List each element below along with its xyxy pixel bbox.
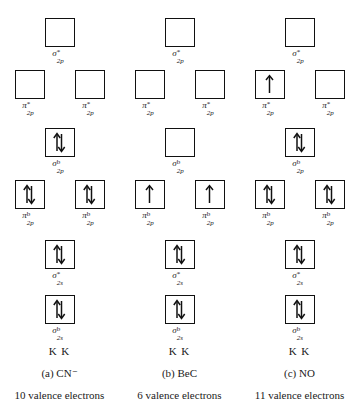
energy-level-sigma-star-2p: σ*2p	[240, 18, 359, 58]
orbital-pi-star-2p-2: π*2p	[190, 70, 230, 110]
orbital-pi-star-2p-1: π*2p	[10, 70, 50, 110]
orbital-sigma-b-2s: σb2s	[280, 295, 320, 335]
orbital-label-sigma-b-2p: σb2p	[52, 159, 66, 168]
orbital-label-pi-star-2p: π*2p	[322, 101, 337, 110]
orbital-pi-b-2p-1: πb2p	[10, 180, 50, 220]
orbital-label-sigma-b-2p: σb2p	[172, 159, 186, 168]
orbital-box-empty	[165, 18, 195, 47]
mo-column-no: σ*2pπ*2pπ*2pσb2pπb2pπb2pσ*2sσb2sK K(c) N…	[240, 0, 359, 409]
orbital-label-sigma-b-2p: σb2p	[292, 159, 306, 168]
orbital-label-pi-star-2p: π*2p	[202, 101, 217, 110]
orbital-pi-b-2p-1: πb2p	[130, 180, 170, 220]
orbital-pi-star-2p-2: π*2p	[310, 70, 350, 110]
orbital-box-paired-electrons	[315, 180, 345, 209]
energy-level-sigma-b-2p: σb2p	[240, 128, 359, 168]
orbital-sigma-star-2s: σ*2s	[40, 240, 80, 280]
orbital-label-pi-b-2p: πb2p	[262, 211, 277, 220]
core-shell-label: K K	[0, 345, 119, 357]
orbital-label-sigma-star-2p: σ*2p	[292, 49, 306, 58]
orbital-box-empty	[315, 70, 345, 99]
orbital-label-sigma-star-2s: σ*2s	[52, 271, 66, 280]
orbital-label-pi-b-2p: πb2p	[142, 211, 157, 220]
orbital-box-empty	[165, 128, 195, 157]
orbital-label-sigma-star-2p: σ*2p	[172, 49, 186, 58]
orbital-sigma-star-2p: σ*2p	[160, 18, 200, 58]
energy-level-sigma-b-2s: σb2s	[120, 295, 239, 335]
orbital-pi-b-2p-2: πb2p	[310, 180, 350, 220]
orbital-pi-b-2p-2: πb2p	[70, 180, 110, 220]
orbital-box-single-electron	[255, 70, 285, 99]
orbital-label-pi-star-2p: π*2p	[22, 101, 37, 110]
orbital-sigma-star-2p: σ*2p	[40, 18, 80, 58]
orbital-box-paired-electrons	[45, 128, 75, 157]
energy-level-sigma-star-2s: σ*2s	[240, 240, 359, 280]
energy-level-sigma-star-2s: σ*2s	[0, 240, 119, 280]
orbital-pi-star-2p-1: π*2p	[250, 70, 290, 110]
orbital-pi-star-2p-2: π*2p	[70, 70, 110, 110]
orbital-box-empty	[135, 70, 165, 99]
core-shell-label: K K	[240, 345, 359, 357]
orbital-label-sigma-b-2s: σb2s	[52, 326, 66, 335]
column-caption: (c) NO	[240, 367, 359, 379]
orbital-box-paired-electrons	[15, 180, 45, 209]
orbital-sigma-star-2p: σ*2p	[280, 18, 320, 58]
energy-level-pi-b-2p: πb2pπb2p	[120, 180, 239, 220]
energy-level-sigma-b-2s: σb2s	[0, 295, 119, 335]
orbital-sigma-b-2p: σb2p	[40, 128, 80, 168]
energy-level-sigma-star-2s: σ*2s	[120, 240, 239, 280]
column-caption: (a) CN⁻	[0, 367, 119, 380]
mo-column-cn: σ*2pπ*2pπ*2pσb2pπb2pπb2pσ*2sσb2sK K(a) C…	[0, 0, 119, 409]
orbital-box-empty	[285, 18, 315, 47]
orbital-sigma-b-2s: σb2s	[40, 295, 80, 335]
orbital-box-paired-electrons	[165, 295, 195, 324]
energy-level-sigma-star-2p: σ*2p	[120, 18, 239, 58]
orbital-box-empty	[15, 70, 45, 99]
core-shell-label: K K	[120, 345, 239, 357]
energy-level-sigma-b-2p: σb2p	[120, 128, 239, 168]
energy-level-sigma-b-2s: σb2s	[240, 295, 359, 335]
orbital-label-sigma-b-2s: σb2s	[172, 326, 186, 335]
valence-electron-count: 11 valence electrons	[240, 389, 359, 401]
orbital-label-sigma-star-2s: σ*2s	[292, 271, 306, 280]
orbital-label-pi-star-2p: π*2p	[142, 101, 157, 110]
energy-level-pi-b-2p: πb2pπb2p	[0, 180, 119, 220]
orbital-sigma-b-2p: σb2p	[280, 128, 320, 168]
column-caption: (b) BeC	[120, 367, 239, 379]
energy-level-pi-star-2p: π*2pπ*2p	[240, 70, 359, 110]
orbital-label-sigma-star-2s: σ*2s	[172, 271, 186, 280]
orbital-box-empty	[195, 70, 225, 99]
energy-level-pi-star-2p: π*2pπ*2p	[120, 70, 239, 110]
orbital-box-empty	[75, 70, 105, 99]
orbital-box-paired-electrons	[45, 240, 75, 269]
energy-level-pi-b-2p: πb2pπb2p	[240, 180, 359, 220]
orbital-box-paired-electrons	[45, 295, 75, 324]
orbital-box-empty	[45, 18, 75, 47]
orbital-box-paired-electrons	[285, 128, 315, 157]
orbital-pi-star-2p-1: π*2p	[130, 70, 170, 110]
orbital-pi-b-2p-1: πb2p	[250, 180, 290, 220]
orbital-box-single-electron	[135, 180, 165, 209]
orbital-label-sigma-star-2p: σ*2p	[52, 49, 66, 58]
orbital-label-pi-b-2p: πb2p	[322, 211, 337, 220]
orbital-box-paired-electrons	[285, 240, 315, 269]
orbital-box-paired-electrons	[75, 180, 105, 209]
orbital-sigma-b-2s: σb2s	[160, 295, 200, 335]
mo-diagram-figure: σ*2pπ*2pπ*2pσb2pπb2pπb2pσ*2sσb2sK K(a) C…	[0, 0, 359, 409]
orbital-sigma-star-2s: σ*2s	[280, 240, 320, 280]
orbital-box-paired-electrons	[255, 180, 285, 209]
orbital-label-pi-b-2p: πb2p	[82, 211, 97, 220]
orbital-box-single-electron	[195, 180, 225, 209]
orbital-label-pi-star-2p: π*2p	[82, 101, 97, 110]
energy-level-pi-star-2p: π*2pπ*2p	[0, 70, 119, 110]
orbital-label-pi-star-2p: π*2p	[262, 101, 277, 110]
valence-electron-count: 10 valence electrons	[0, 389, 119, 401]
orbital-pi-b-2p-2: πb2p	[190, 180, 230, 220]
orbital-label-pi-b-2p: πb2p	[202, 211, 217, 220]
energy-level-sigma-star-2p: σ*2p	[0, 18, 119, 58]
orbital-sigma-star-2s: σ*2s	[160, 240, 200, 280]
orbital-box-paired-electrons	[165, 240, 195, 269]
orbital-label-sigma-b-2s: σb2s	[292, 326, 306, 335]
valence-electron-count: 6 valence electrons	[120, 389, 239, 401]
orbital-label-pi-b-2p: πb2p	[22, 211, 37, 220]
energy-level-sigma-b-2p: σb2p	[0, 128, 119, 168]
